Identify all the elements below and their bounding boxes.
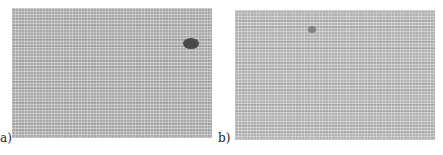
image-panel-b xyxy=(235,10,435,140)
faint-speckle xyxy=(308,26,316,33)
image-panel-a xyxy=(12,8,212,138)
panel-label-b: b) xyxy=(218,131,230,145)
dark-spot xyxy=(183,38,199,49)
panel-label-a: a) xyxy=(0,131,12,145)
